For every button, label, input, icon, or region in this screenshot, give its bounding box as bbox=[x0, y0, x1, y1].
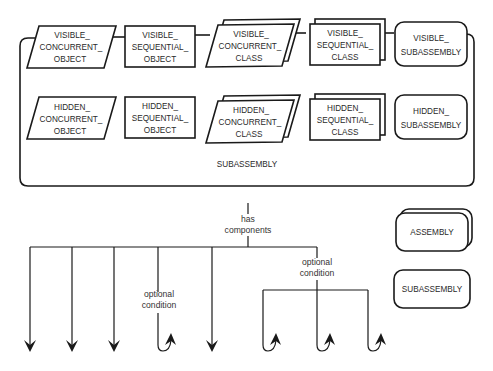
condition-label: condition bbox=[300, 268, 335, 278]
svg-text:VISIBLE_: VISIBLE_ bbox=[54, 31, 90, 40]
visible-subassembly-node[interactable]: VISIBLE_ SUBASSEMBLY bbox=[395, 22, 467, 66]
hidden-sequential-class-node[interactable]: HIDDEN_ SEQUENTIAL_ CLASS bbox=[310, 94, 385, 140]
svg-text:CLASS: CLASS bbox=[332, 128, 359, 137]
svg-text:SUBASSEMBLY: SUBASSEMBLY bbox=[402, 285, 463, 294]
svg-text:HIDDEN_: HIDDEN_ bbox=[413, 107, 449, 116]
svg-text:CONCURRENT_: CONCURRENT_ bbox=[40, 43, 103, 52]
optional-component-hook-1: optional condition bbox=[142, 247, 177, 351]
svg-text:CLASS: CLASS bbox=[236, 130, 263, 139]
svg-text:CONCURRENT_: CONCURRENT_ bbox=[219, 42, 282, 51]
svg-text:SEQUENTIAL_: SEQUENTIAL_ bbox=[132, 43, 189, 52]
hidden-concurrent-class-node[interactable]: HIDDEN_ CONCURRENT_ CLASS bbox=[206, 95, 300, 143]
visible-sequential-class-node[interactable]: VISIBLE_ SEQUENTIAL_ CLASS bbox=[310, 19, 385, 65]
optional-branch-2: optional condition bbox=[263, 247, 386, 351]
svg-text:SEQUENTIAL_: SEQUENTIAL_ bbox=[317, 116, 374, 125]
notation-diagram: SUBASSEMBLY VISIBLE_ CONCURRENT_ OBJECT … bbox=[0, 0, 493, 371]
svg-text:SEQUENTIAL_: SEQUENTIAL_ bbox=[132, 114, 189, 123]
svg-text:HIDDEN_: HIDDEN_ bbox=[233, 106, 269, 115]
component-arrow-4 bbox=[206, 247, 218, 352]
svg-text:VISIBLE_: VISIBLE_ bbox=[142, 31, 178, 40]
hidden-sequential-object-node[interactable]: HIDDEN_ SEQUENTIAL_ OBJECT bbox=[125, 97, 195, 138]
visible-sequential-object-node[interactable]: VISIBLE_ SEQUENTIAL_ OBJECT bbox=[125, 26, 195, 67]
legend-subassembly: SUBASSEMBLY bbox=[394, 270, 470, 308]
condition-label: condition bbox=[142, 300, 177, 310]
optional-label: optional bbox=[302, 257, 332, 267]
svg-text:CLASS: CLASS bbox=[236, 54, 263, 63]
container-label: SUBASSEMBLY bbox=[217, 160, 278, 169]
svg-text:SUBASSEMBLY: SUBASSEMBLY bbox=[401, 121, 462, 130]
svg-text:HIDDEN_: HIDDEN_ bbox=[54, 103, 90, 112]
svg-text:OBJECT: OBJECT bbox=[54, 127, 86, 136]
svg-text:HIDDEN_: HIDDEN_ bbox=[327, 104, 363, 113]
svg-text:OBJECT: OBJECT bbox=[54, 55, 86, 64]
visible-concurrent-object-node[interactable]: VISIBLE_ CONCURRENT_ OBJECT bbox=[27, 26, 116, 68]
hidden-subassembly-node[interactable]: HIDDEN_ SUBASSEMBLY bbox=[395, 95, 467, 139]
svg-text:CONCURRENT_: CONCURRENT_ bbox=[40, 115, 103, 124]
svg-text:VISIBLE_: VISIBLE_ bbox=[413, 34, 449, 43]
svg-text:OBJECT: OBJECT bbox=[144, 55, 176, 64]
svg-text:HIDDEN_: HIDDEN_ bbox=[142, 102, 178, 111]
svg-text:CONCURRENT_: CONCURRENT_ bbox=[219, 118, 282, 127]
svg-text:OBJECT: OBJECT bbox=[144, 126, 176, 135]
svg-text:SEQUENTIAL_: SEQUENTIAL_ bbox=[317, 41, 374, 50]
legend-assembly: ASSEMBLY bbox=[396, 209, 472, 251]
hidden-concurrent-object-node[interactable]: HIDDEN_ CONCURRENT_ OBJECT bbox=[27, 97, 116, 139]
has-label: has bbox=[241, 214, 255, 224]
optional-label: optional bbox=[144, 289, 174, 299]
svg-text:ASSEMBLY: ASSEMBLY bbox=[410, 228, 454, 237]
visible-concurrent-class-node[interactable]: VISIBLE_ CONCURRENT_ CLASS bbox=[206, 19, 300, 67]
svg-text:SUBASSEMBLY: SUBASSEMBLY bbox=[401, 48, 462, 57]
svg-text:VISIBLE_: VISIBLE_ bbox=[233, 30, 269, 39]
components-label: components bbox=[225, 225, 272, 235]
component-arrow-3 bbox=[108, 247, 120, 352]
has-components-tree: has components optional condition bbox=[24, 203, 386, 352]
component-arrow-1 bbox=[24, 247, 36, 352]
svg-text:CLASS: CLASS bbox=[332, 53, 359, 62]
svg-text:VISIBLE_: VISIBLE_ bbox=[327, 29, 363, 38]
component-arrow-2 bbox=[66, 247, 78, 352]
